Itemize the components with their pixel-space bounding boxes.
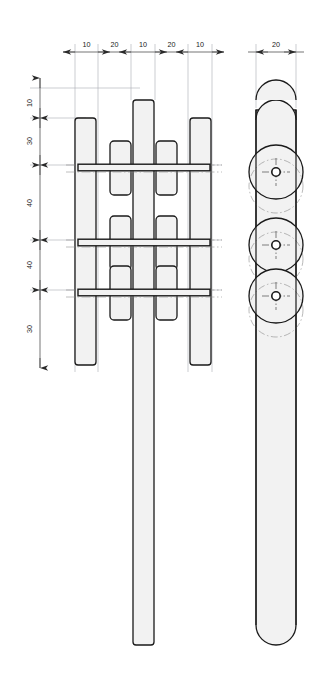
- dim-label-top-1: 10: [83, 40, 91, 49]
- pin-shaft-top: [78, 164, 210, 171]
- side-view: [249, 80, 303, 645]
- technical-drawing-canvas: 10 20 10 20 10 20 10 3: [0, 0, 325, 676]
- disc-bore-top: [272, 168, 280, 176]
- engineering-drawing-svg: 10 20 10 20 10 20 10 3: [0, 0, 325, 676]
- dim-label-left-5: 30: [25, 325, 34, 333]
- dim-label-left-2: 30: [25, 137, 34, 145]
- pin-shaft-bottom: [78, 289, 210, 296]
- dim-label-left-3: 40: [25, 199, 34, 207]
- center-shaft-plate: [133, 100, 154, 645]
- pin-row-bottom: [66, 289, 222, 297]
- pin-shaft-middle: [78, 239, 210, 246]
- dim-label-top-2: 20: [111, 40, 119, 49]
- pin-row-middle: [66, 239, 222, 247]
- dim-label-left-4: 40: [25, 261, 34, 269]
- dim-label-top-4: 20: [168, 40, 176, 49]
- disc-bore-middle: [272, 241, 280, 249]
- dim-label-top-5: 10: [196, 40, 204, 49]
- disc-bore-bottom: [272, 292, 280, 300]
- dim-label-top-3: 10: [139, 40, 147, 49]
- dim-label-left-1: 10: [25, 99, 34, 107]
- dim-label-side-width: 20: [272, 40, 280, 49]
- pin-row-top: [66, 164, 222, 172]
